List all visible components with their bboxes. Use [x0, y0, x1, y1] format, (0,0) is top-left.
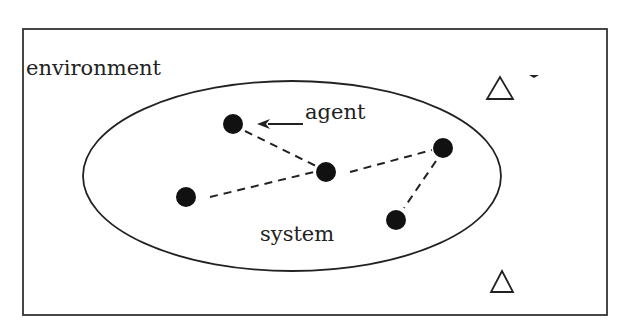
triangle-icon: [487, 75, 539, 99]
agent-node: [433, 138, 453, 158]
system-label: system: [260, 222, 334, 246]
agent-node: [223, 114, 243, 134]
link-a4-a5: [404, 161, 436, 208]
link-a1-a2: [245, 131, 316, 166]
environment-label: environment: [26, 56, 162, 80]
agent-nodes: [176, 114, 453, 230]
link-a3-a2: [210, 172, 314, 197]
agent-pointer-arrow: [257, 119, 303, 129]
link-a2-a4: [350, 150, 432, 172]
diagram-canvas: environment agent system: [0, 0, 631, 326]
agent-node: [386, 210, 406, 230]
triangle-icon: [491, 271, 513, 292]
agent-node: [176, 187, 196, 207]
agent-node: [316, 162, 336, 182]
small-arrowhead-icon: [529, 75, 539, 78]
agent-label: agent: [305, 100, 366, 124]
